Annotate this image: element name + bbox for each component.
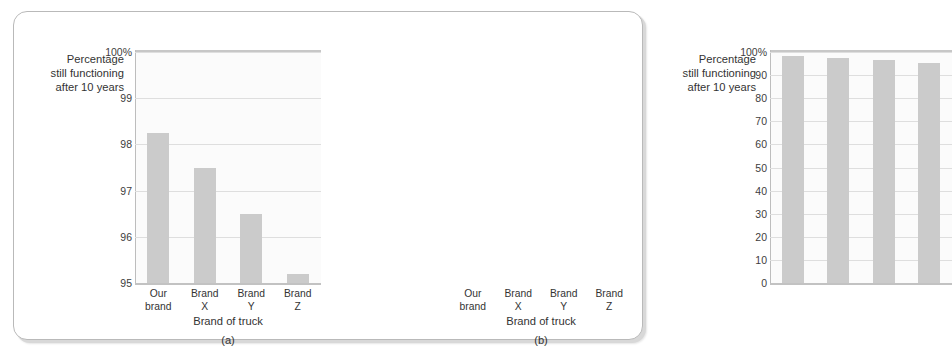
bar bbox=[240, 214, 262, 283]
x-axis-title-b: Brand of truck bbox=[450, 315, 632, 327]
gridline bbox=[135, 52, 321, 53]
y-axis-line-a bbox=[135, 50, 136, 285]
x-tick-label: Brand Z bbox=[587, 288, 633, 313]
y-tick-label: 99 bbox=[120, 92, 132, 104]
y-tick-labels-b: 0102030405060708090100% bbox=[727, 50, 767, 285]
bar bbox=[827, 58, 849, 283]
x-axis-line-b bbox=[770, 283, 952, 285]
plot-area-a bbox=[135, 50, 321, 285]
y-tick-labels-a: 9596979899100% bbox=[92, 50, 132, 285]
x-axis-line-a bbox=[135, 283, 321, 285]
y-tick-label: 95 bbox=[120, 277, 132, 289]
panel-label-b: (b) bbox=[450, 334, 632, 346]
x-tick-label: Brand Y bbox=[541, 288, 587, 313]
chart-panel-a: Percentage still functioning after 10 ye… bbox=[14, 12, 334, 341]
y-tick-label: 80 bbox=[755, 92, 767, 104]
y-tick-label: 96 bbox=[120, 231, 132, 243]
x-tick-label: Brand Z bbox=[275, 288, 322, 313]
y-tick-label: 20 bbox=[755, 231, 767, 243]
x-tick-label: Brand Y bbox=[228, 288, 275, 313]
chart-panel-b: Percentage still functioning after 10 ye… bbox=[334, 12, 644, 341]
x-tick-label: Our brand bbox=[450, 288, 496, 313]
bar bbox=[194, 168, 216, 284]
gridline bbox=[135, 98, 321, 99]
y-tick-label: 40 bbox=[755, 185, 767, 197]
plot-area-b bbox=[770, 50, 952, 285]
y-tick-label: 30 bbox=[755, 208, 767, 220]
panel-label-a: (a) bbox=[135, 334, 321, 346]
bar bbox=[782, 56, 804, 283]
bar bbox=[287, 274, 309, 283]
bar bbox=[147, 133, 169, 283]
bar bbox=[918, 63, 940, 283]
y-tick-label: 10 bbox=[755, 254, 767, 266]
y-tick-label: 50 bbox=[755, 162, 767, 174]
x-tick-label: Brand X bbox=[182, 288, 229, 313]
gridline bbox=[770, 52, 952, 53]
figure-frame: Percentage still functioning after 10 ye… bbox=[13, 11, 643, 340]
x-tick-label: Our brand bbox=[135, 288, 182, 313]
y-tick-label: 100% bbox=[740, 46, 767, 58]
y-tick-label: 97 bbox=[120, 185, 132, 197]
y-tick-label: 100% bbox=[105, 46, 132, 58]
y-tick-label: 98 bbox=[120, 138, 132, 150]
x-axis-title-a: Brand of truck bbox=[135, 315, 321, 327]
y-tick-label: 70 bbox=[755, 115, 767, 127]
y-tick-label: 90 bbox=[755, 69, 767, 81]
y-tick-label: 0 bbox=[761, 277, 767, 289]
y-tick-label: 60 bbox=[755, 138, 767, 150]
bar bbox=[873, 60, 895, 283]
x-tick-label: Brand X bbox=[496, 288, 542, 313]
